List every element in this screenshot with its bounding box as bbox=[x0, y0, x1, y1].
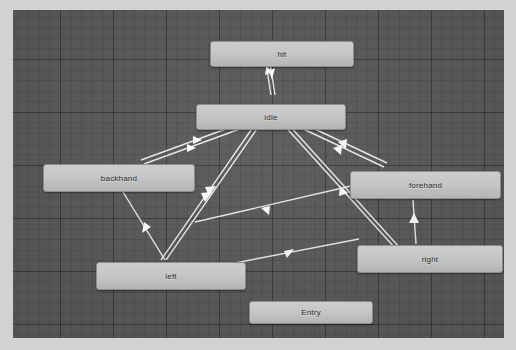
state-node-label: right bbox=[422, 255, 439, 264]
state-node-forehand[interactable]: forehand bbox=[350, 171, 501, 199]
state-node-Entry[interactable]: Entry bbox=[249, 301, 373, 324]
state-node-label: forehand bbox=[409, 181, 442, 190]
state-machine-canvas[interactable]: .tline { stroke: #f2f2f2; stroke-width: … bbox=[13, 10, 504, 338]
state-node-label: Entry bbox=[301, 308, 321, 317]
state-node-hit[interactable]: hit bbox=[210, 41, 354, 67]
state-node-label: backhand bbox=[101, 174, 137, 183]
state-node-left[interactable]: left bbox=[96, 262, 246, 290]
state-node-idle[interactable]: idle bbox=[196, 104, 346, 130]
state-node-label: hit bbox=[277, 50, 286, 59]
state-node-backhand[interactable]: backhand bbox=[43, 164, 195, 192]
state-node-right[interactable]: right bbox=[357, 245, 503, 273]
transition-right-forehand[interactable] bbox=[409, 200, 419, 244]
state-node-label: left bbox=[165, 272, 176, 281]
state-node-label: idle bbox=[264, 113, 277, 122]
animator-window: .tline { stroke: #f2f2f2; stroke-width: … bbox=[0, 0, 516, 350]
transition-forehand-left[interactable] bbox=[195, 186, 351, 222]
transition-left-backhand[interactable] bbox=[123, 192, 165, 260]
